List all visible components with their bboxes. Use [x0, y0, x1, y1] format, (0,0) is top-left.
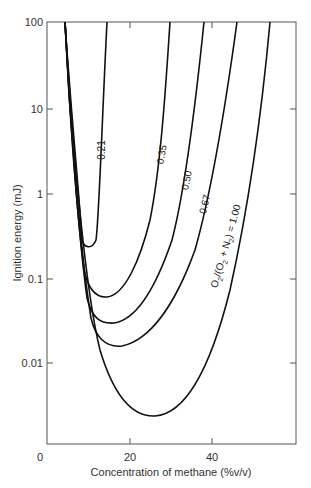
- curve-label-0-50: 0.50: [179, 169, 194, 191]
- y-tick-10: 10: [31, 103, 43, 115]
- curve-1-00: [65, 22, 270, 416]
- x-tick-40: 40: [206, 451, 218, 463]
- x-tick-20: 20: [124, 451, 136, 463]
- y-axis-ticks-left: [47, 109, 53, 363]
- x-axis-title: Concentration of methane (%v/v): [91, 466, 252, 478]
- curve-label-0-67: 0.67: [197, 193, 212, 215]
- y-axis-ticks-right: [290, 109, 296, 363]
- x-tick-0: 0: [37, 451, 43, 463]
- plot-frame: [47, 22, 296, 444]
- curve-label-0-35: 0.35: [154, 143, 168, 165]
- y-tick-0-01: 0.01: [22, 357, 43, 369]
- y-tick-0-1: 0.1: [28, 273, 43, 285]
- curve-label-0-21: 0.21: [96, 140, 107, 160]
- y-axis-title: Ignition energy (mJ): [11, 184, 23, 281]
- y-tick-1: 1: [37, 188, 43, 200]
- ignition-energy-chart: 100 10 1 0.1 0.01 0 20 40 Concentration …: [0, 0, 311, 488]
- y-tick-100: 100: [25, 16, 43, 28]
